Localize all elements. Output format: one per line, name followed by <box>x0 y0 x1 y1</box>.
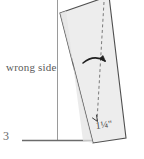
fabric-piece <box>60 0 126 143</box>
measurement-label: 1¼" <box>95 118 113 131</box>
sewing-step-diagram: wrong side 3 1¼" <box>0 0 144 159</box>
fabric-wrong-side-label: wrong side <box>6 61 57 73</box>
diagram-canvas <box>0 0 144 159</box>
step-number-label: 3 <box>3 129 9 144</box>
